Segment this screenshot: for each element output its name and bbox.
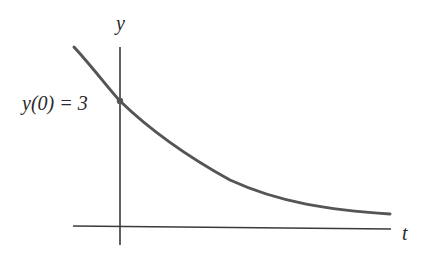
decay-curve bbox=[74, 47, 390, 214]
y-axis-label: y bbox=[114, 12, 125, 35]
decay-graph-figure: y t y(0) = 3 bbox=[0, 0, 431, 257]
initial-condition-label: y(0) = 3 bbox=[20, 92, 88, 115]
initial-point-marker bbox=[117, 98, 123, 104]
t-axis-label: t bbox=[402, 222, 408, 244]
initial-condition-text: y(0) = 3 bbox=[20, 92, 88, 115]
